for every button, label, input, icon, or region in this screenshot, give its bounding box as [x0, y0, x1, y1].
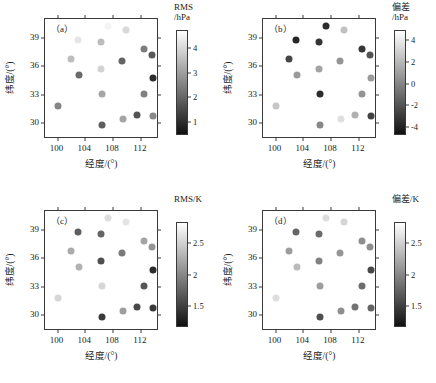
plot-area-b: （b） [262, 18, 376, 138]
y-tick-label: 39 [30, 224, 39, 234]
data-point [119, 249, 126, 256]
x-tick-label: 112 [133, 143, 146, 153]
x-tick [358, 329, 359, 333]
plot-inner-d: （d） [263, 211, 375, 329]
x-tick-label: 108 [323, 143, 337, 153]
x-tick [303, 137, 304, 141]
y-tick-label: 33 [248, 281, 257, 291]
data-point [149, 51, 156, 58]
x-tick [303, 329, 304, 333]
x-tick [113, 329, 114, 333]
colorbar-tick-label: 1 [193, 117, 197, 127]
data-point [123, 219, 130, 226]
data-point [149, 113, 156, 120]
data-point [286, 247, 293, 254]
colorbar-a: 1234 [176, 30, 188, 135]
x-tick-label: 104 [296, 143, 310, 153]
data-point [367, 266, 374, 273]
y-tick-label: 33 [30, 281, 39, 291]
figure-root: 10010410811230333639（a）经度/(°)纬度/(°)RMS/h… [0, 0, 436, 383]
data-point [317, 313, 324, 320]
colorbar-tick [406, 243, 409, 244]
colorbar-b: -4-2024 [394, 30, 406, 135]
x-tick [331, 329, 332, 333]
colorbar-tick-label: 2 [193, 92, 197, 102]
x-tick-label: 104 [78, 143, 92, 153]
data-point [119, 57, 126, 64]
y-tick-label: 36 [248, 60, 257, 70]
x-tick-label: 112 [351, 335, 364, 345]
x-tick [275, 137, 276, 141]
colorbar-tick [406, 305, 409, 306]
data-point [367, 305, 374, 312]
x-tick-top [358, 15, 359, 19]
y-tick-right [157, 37, 161, 38]
y-tick [41, 94, 45, 95]
colorbar-tick-label: 0 [411, 79, 415, 89]
x-tick [85, 137, 86, 141]
y-tick-right [157, 66, 161, 67]
y-tick [259, 314, 263, 315]
data-point [323, 214, 330, 221]
x-tick-label: 108 [323, 335, 337, 345]
x-tick-top [85, 207, 86, 211]
plot-inner-b: （b） [263, 19, 375, 137]
panel-tag-c: （c） [51, 214, 73, 227]
data-point [105, 22, 112, 29]
data-point [294, 71, 301, 78]
colorbar-tick [188, 305, 191, 306]
colorbar-title-b: 偏差/hPa [392, 2, 410, 22]
x-tick-label: 112 [351, 143, 364, 153]
y-tick-right [375, 66, 379, 67]
y-tick [259, 286, 263, 287]
colorbar-tick [406, 83, 409, 84]
y-tick [259, 66, 263, 67]
y-tick [259, 37, 263, 38]
data-point [98, 38, 105, 45]
y-tick [41, 258, 45, 259]
data-point [351, 304, 358, 311]
colorbar-gradient [176, 222, 188, 327]
x-tick-label: 100 [50, 143, 64, 153]
colorbar-tick-label: 1.5 [411, 301, 422, 311]
colorbar-gradient [394, 222, 406, 327]
data-point [341, 27, 348, 34]
y-tick [259, 258, 263, 259]
plot-inner-c: （c） [45, 211, 157, 329]
colorbar-c: 1.522.5 [176, 222, 188, 327]
colorbar-tick-label: 2.5 [411, 238, 422, 248]
data-point [367, 243, 374, 250]
panel-b: 10010410811230333639（b）经度/(°)纬度/(°)偏差/hP… [218, 0, 436, 191]
data-point [75, 228, 82, 235]
colorbar-title-line1: RMS/K [174, 194, 202, 204]
y-tick-label: 39 [30, 32, 39, 42]
data-point [75, 36, 82, 43]
colorbar-tick [406, 127, 409, 128]
y-tick-right [375, 314, 379, 315]
colorbar-title-a: RMS/hPa [174, 2, 193, 22]
data-point [286, 55, 293, 62]
y-tick-label: 33 [30, 89, 39, 99]
data-point [316, 66, 323, 73]
x-tick-label: 104 [78, 335, 92, 345]
y-tick-right [157, 229, 161, 230]
x-tick-label: 100 [50, 335, 64, 345]
x-tick-top [275, 15, 276, 19]
x-tick-top [113, 15, 114, 19]
data-point [99, 90, 106, 97]
data-point [68, 247, 75, 254]
data-point [272, 294, 279, 301]
y-tick-right [375, 258, 379, 259]
data-point [317, 90, 324, 97]
colorbar-tick-label: 2 [193, 270, 197, 280]
data-point [317, 282, 324, 289]
x-tick [275, 329, 276, 333]
x-tick-top [303, 15, 304, 19]
colorbar-title-line2: /hPa [392, 12, 410, 22]
panel-c: 10010410811230333639（c）经度/(°)纬度/(°)RMS/K… [0, 192, 218, 383]
data-point [294, 263, 301, 270]
data-point [54, 294, 61, 301]
data-point [317, 121, 324, 128]
data-point [76, 71, 83, 78]
y-axis-label: 纬度/(°) [2, 62, 16, 95]
